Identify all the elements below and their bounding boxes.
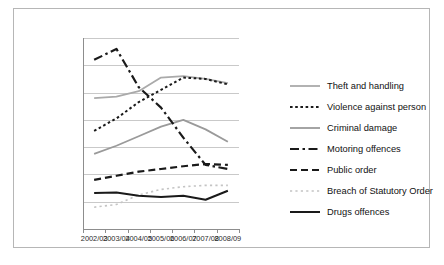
x-axis-tick bbox=[239, 229, 240, 233]
legend-label: Breach of Statutory Order bbox=[327, 186, 433, 197]
legend-item: Criminal damage bbox=[290, 119, 440, 137]
legend-label: Violence against person bbox=[327, 102, 426, 113]
x-axis-tick bbox=[217, 229, 218, 233]
x-axis-tick-label: 2008/09 bbox=[212, 235, 244, 243]
legend-item: Public order bbox=[290, 161, 440, 179]
figure-caption bbox=[14, 255, 434, 265]
chart-frame: 010,00020,00030,00040,00050,00060,00070,… bbox=[13, 8, 430, 248]
chart-legend: Theft and handlingViolence against perso… bbox=[290, 77, 440, 227]
legend-label: Theft and handling bbox=[327, 81, 404, 92]
legend-item: Theft and handling bbox=[290, 77, 440, 95]
series-line bbox=[94, 78, 228, 131]
legend-swatch bbox=[290, 80, 320, 92]
legend-label: Drugs offences bbox=[327, 207, 389, 218]
legend-item: Motoring offences bbox=[290, 140, 440, 158]
legend-item: Drugs offences bbox=[290, 203, 440, 221]
legend-swatch bbox=[290, 164, 320, 176]
legend-label: Motoring offences bbox=[327, 144, 401, 155]
x-axis-tick bbox=[150, 229, 151, 233]
legend-swatch bbox=[290, 122, 320, 134]
x-axis-tick bbox=[105, 229, 106, 233]
x-axis-tick bbox=[83, 229, 84, 233]
x-axis-tick bbox=[172, 229, 173, 233]
legend-item: Breach of Statutory Order bbox=[290, 182, 440, 200]
legend-swatch bbox=[290, 143, 320, 155]
x-axis-tick bbox=[128, 229, 129, 233]
series-line bbox=[94, 120, 228, 154]
legend-item: Violence against person bbox=[290, 98, 440, 116]
series-line bbox=[94, 49, 228, 169]
series-line bbox=[94, 191, 228, 200]
y-axis-labels: 010,00020,00030,00040,00050,00060,00070,… bbox=[28, 9, 80, 265]
legend-label: Criminal damage bbox=[327, 123, 397, 134]
legend-swatch bbox=[290, 206, 320, 218]
legend-swatch bbox=[290, 185, 320, 197]
series-lines bbox=[83, 38, 239, 229]
legend-label: Public order bbox=[327, 165, 377, 176]
figure-container: 010,00020,00030,00040,00050,00060,00070,… bbox=[0, 0, 444, 265]
series-line bbox=[94, 164, 228, 180]
series-line bbox=[94, 76, 228, 98]
x-axis-tick bbox=[194, 229, 195, 233]
legend-swatch bbox=[290, 101, 320, 113]
